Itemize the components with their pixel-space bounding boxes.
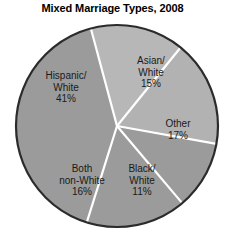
- slice-label-hispanic-white: Hispanic/ White 41%: [22, 70, 110, 105]
- pie-chart-figure: Mixed Marriage Types, 2008 Hispanic: [0, 0, 225, 236]
- slice-value-hispanic-white: 41%: [22, 93, 110, 105]
- slice-value-black-white: 11%: [113, 186, 171, 198]
- slice-value-both-non-white: 16%: [44, 186, 120, 198]
- slice-label-line: non-White: [44, 175, 120, 187]
- slice-label-line: White: [113, 175, 171, 187]
- slice-label-both-non-white: Both non-White 16%: [44, 163, 120, 198]
- slice-label-asian-white: Asian/ White 15%: [120, 55, 182, 90]
- slice-label-other: Other 17%: [148, 118, 208, 141]
- slice-label-line: White: [22, 82, 110, 94]
- slice-label-line: Both: [44, 163, 120, 175]
- slice-value-other: 17%: [148, 130, 208, 142]
- slice-label-line: Black/: [113, 163, 171, 175]
- slice-label-line: Other: [148, 118, 208, 130]
- pie-graphic: Hispanic/ White 41% Asian/ White 15% Oth…: [0, 0, 225, 236]
- slice-value-asian-white: 15%: [120, 78, 182, 90]
- slice-label-black-white: Black/ White 11%: [113, 163, 171, 198]
- slice-label-line: White: [120, 67, 182, 79]
- slice-label-line: Hispanic/: [22, 70, 110, 82]
- slice-label-line: Asian/: [120, 55, 182, 67]
